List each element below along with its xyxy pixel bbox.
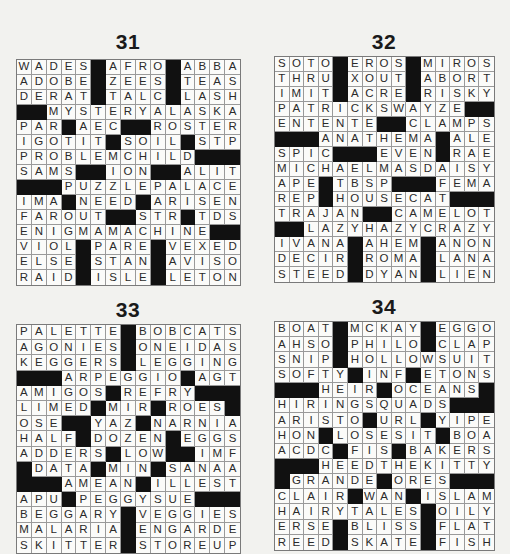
letter-cell: S	[392, 520, 407, 535]
letter-cell: R	[181, 416, 196, 431]
letter-cell: P	[76, 492, 91, 507]
black-square	[17, 462, 32, 477]
letter-cell: A	[479, 428, 494, 443]
crossword-grid: PALETTEBOBCATSAGONIESONEIDASKEGGERSLEGGI…	[16, 324, 241, 554]
black-square	[151, 462, 166, 477]
letter-cell: C	[363, 322, 378, 337]
letter-cell: A	[106, 523, 121, 538]
letter-cell: E	[181, 492, 196, 507]
black-square	[421, 413, 436, 428]
letter-cell: R	[91, 355, 106, 370]
letter-cell: R	[181, 538, 196, 553]
black-square	[106, 386, 121, 401]
letter-cell: C	[406, 383, 421, 398]
letter-cell: E	[304, 535, 319, 550]
letter-cell: I	[195, 507, 210, 522]
letter-cell: G	[166, 355, 181, 370]
letter-cell: E	[136, 523, 151, 538]
letter-cell: S	[436, 489, 451, 504]
letter-cell: N	[450, 383, 465, 398]
letter-cell: T	[450, 459, 465, 474]
letter-cell: G	[62, 507, 77, 522]
letter-cell: N	[151, 523, 166, 538]
letter-cell: B	[17, 507, 32, 522]
black-square	[450, 474, 465, 489]
letter-cell: S	[91, 447, 106, 462]
black-square	[275, 383, 290, 398]
letter-cell: O	[166, 371, 181, 386]
letter-cell: D	[348, 474, 363, 489]
letter-cell: O	[181, 401, 196, 416]
letter-cell: E	[136, 386, 151, 401]
letter-cell: P	[225, 538, 240, 553]
letter-cell: A	[319, 474, 334, 489]
letter-cell: H	[17, 431, 32, 446]
letter-cell: A	[32, 325, 47, 340]
black-square	[210, 386, 225, 401]
letter-cell: A	[436, 383, 451, 398]
letter-cell: E	[421, 383, 436, 398]
letter-cell: S	[465, 535, 480, 550]
letter-cell: O	[106, 431, 121, 446]
letter-cell: D	[195, 340, 210, 355]
letter-cell: E	[406, 535, 421, 550]
black-square	[333, 352, 348, 367]
letter-cell: E	[32, 355, 47, 370]
letter-cell: I	[363, 444, 378, 459]
letter-cell: N	[136, 462, 151, 477]
letter-cell: O	[290, 322, 305, 337]
letter-cell: A	[17, 447, 32, 462]
black-square	[377, 383, 392, 398]
letter-cell: T	[210, 325, 225, 340]
letter-cell: T	[333, 413, 348, 428]
letter-cell: A	[210, 340, 225, 355]
letter-cell: S	[210, 477, 225, 492]
letter-cell: E	[181, 431, 196, 446]
letter-cell: A	[304, 322, 319, 337]
black-square	[91, 462, 106, 477]
letter-cell: O	[290, 368, 305, 383]
letter-cell: M	[479, 489, 494, 504]
letter-cell: I	[151, 371, 166, 386]
letter-cell: F	[436, 535, 451, 550]
letter-cell: H	[392, 459, 407, 474]
letter-cell: W	[421, 352, 436, 367]
letter-cell: K	[363, 535, 378, 550]
letter-cell: E	[151, 355, 166, 370]
letter-cell: G	[32, 340, 47, 355]
black-square	[465, 398, 480, 413]
letter-cell: S	[406, 504, 421, 519]
letter-cell: Y	[136, 492, 151, 507]
letter-cell: N	[62, 340, 77, 355]
letter-cell: T	[76, 538, 91, 553]
letter-cell: S	[377, 444, 392, 459]
letter-cell: I	[319, 489, 334, 504]
letter-cell: G	[450, 322, 465, 337]
letter-cell: E	[363, 474, 378, 489]
letter-cell: I	[377, 520, 392, 535]
letter-cell: E	[225, 523, 240, 538]
letter-cell: B	[275, 322, 290, 337]
letter-cell: K	[17, 355, 32, 370]
letter-cell: T	[392, 535, 407, 550]
letter-cell: L	[17, 401, 32, 416]
letter-cell: M	[106, 401, 121, 416]
letter-cell: E	[106, 371, 121, 386]
letter-cell: H	[363, 337, 378, 352]
letter-cell: A	[62, 477, 77, 492]
letter-cell: T	[151, 538, 166, 553]
letter-cell: B	[166, 325, 181, 340]
black-square	[106, 447, 121, 462]
letter-cell: I	[195, 355, 210, 370]
letter-cell: E	[348, 459, 363, 474]
letter-cell: G	[290, 474, 305, 489]
letter-cell: E	[275, 520, 290, 535]
letter-cell: S	[91, 386, 106, 401]
letter-cell: K	[436, 444, 451, 459]
letter-cell: N	[151, 340, 166, 355]
letter-cell: Y	[91, 416, 106, 431]
letter-cell: L	[47, 431, 62, 446]
letter-cell: L	[290, 489, 305, 504]
black-square	[348, 368, 363, 383]
black-square	[304, 459, 319, 474]
